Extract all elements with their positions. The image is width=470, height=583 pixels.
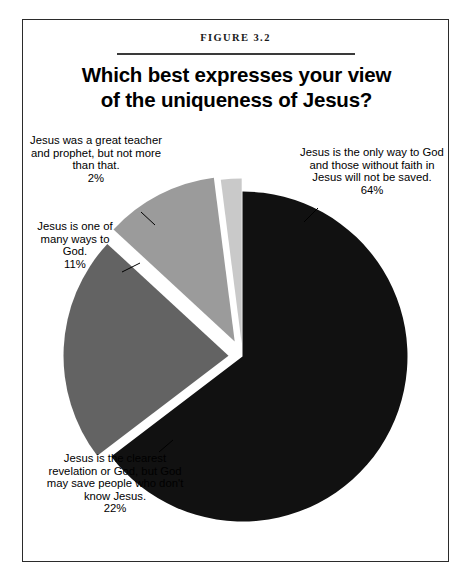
pie-label-only-way-text: Jesus is the only way to God and those w…: [300, 146, 444, 183]
pie-label-only-way: Jesus is the only way to God and those w…: [299, 146, 445, 196]
pie-label-teacher-pct: 2%: [27, 172, 165, 185]
pie-label-clearest: Jesus is the clearest revelation or God,…: [41, 452, 189, 515]
pie-label-many-ways: Jesus is one of many ways to God. 11%: [29, 220, 121, 270]
pie-label-teacher-text: Jesus was a great teacher and prophet, b…: [30, 134, 162, 171]
figure-frame: FIGURE 3.2 Which best expresses your vie…: [22, 19, 449, 562]
pie-label-clearest-text: Jesus is the clearest revelation or God,…: [47, 452, 184, 502]
pie-label-many-ways-pct: 11%: [29, 258, 121, 271]
pie-label-many-ways-text: Jesus is one of many ways to God.: [37, 220, 112, 257]
pie-label-only-way-pct: 64%: [299, 184, 445, 197]
pie-label-clearest-pct: 22%: [41, 502, 189, 515]
pie-label-teacher: Jesus was a great teacher and prophet, b…: [27, 134, 165, 184]
